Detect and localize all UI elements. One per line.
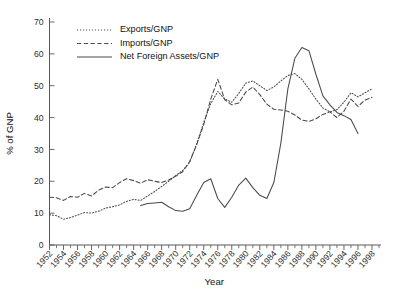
y-tick-label: 60 bbox=[34, 49, 44, 59]
x-axis-ticks: 1952195419561958196019621964196619681970… bbox=[34, 245, 379, 270]
y-tick-label: 20 bbox=[34, 176, 44, 186]
y-tick-label: 70 bbox=[34, 17, 44, 27]
chart-series bbox=[50, 47, 372, 219]
series-line-exports-gnp bbox=[50, 74, 372, 220]
series-line-net-foreign-assets-gnp bbox=[141, 47, 358, 211]
x-tick-label: 1998 bbox=[357, 248, 377, 269]
y-axis-title: % of GNP bbox=[4, 112, 15, 155]
y-tick-label: 30 bbox=[34, 145, 44, 155]
legend-label: Exports/GNP bbox=[120, 24, 173, 34]
y-tick-label: 40 bbox=[34, 113, 44, 123]
legend-label: Imports/GNP bbox=[120, 38, 173, 48]
legend-label: Net Foreign Assets/GNP bbox=[120, 51, 219, 61]
x-axis-title: Year bbox=[205, 276, 225, 287]
y-tick-label: 10 bbox=[34, 208, 44, 218]
line-chart: 010203040506070 195219541956195819601962… bbox=[0, 0, 408, 291]
chart-legend: Exports/GNPImports/GNPNet Foreign Assets… bbox=[77, 24, 219, 61]
y-tick-label: 50 bbox=[34, 81, 44, 91]
chart-container: 010203040506070 195219541956195819601962… bbox=[0, 0, 408, 291]
y-axis-ticks: 010203040506070 bbox=[34, 17, 55, 250]
y-tick-label: 0 bbox=[39, 240, 44, 250]
